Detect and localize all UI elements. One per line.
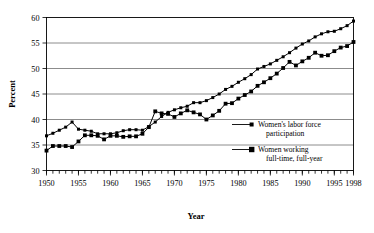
series-0-point-1988 [288, 51, 291, 54]
series-0-point-1996 [339, 27, 342, 30]
series-0-point-1990 [301, 43, 304, 46]
series-1-point-1974 [198, 113, 202, 117]
series-1-point-1953 [64, 144, 68, 148]
series-1-point-1950 [45, 149, 49, 153]
series-0-point-1973 [192, 101, 195, 104]
x-tick-label-1990: 1990 [294, 179, 310, 188]
series-1-point-1995 [332, 49, 336, 53]
series-1-point-1954 [70, 145, 74, 149]
series-0-point-1971 [179, 106, 182, 109]
legend-marker-1 [249, 147, 254, 152]
series-1-point-1979 [230, 101, 234, 105]
series-0-point-1991 [307, 39, 310, 42]
series-1-point-1981 [243, 93, 247, 97]
series-1-point-1971 [179, 111, 183, 115]
series-0-point-1959 [103, 132, 106, 135]
series-0-point-1952 [58, 129, 61, 132]
series-1-point-1957 [89, 133, 93, 137]
series-0-point-1965 [141, 129, 144, 132]
series-0-point-1979 [230, 85, 233, 88]
series-1-point-1973 [192, 110, 196, 114]
series-0-point-1981 [243, 77, 246, 80]
y-tick-label-55: 55 [31, 39, 39, 48]
series-1-point-1963 [128, 134, 132, 138]
series-0-point-1957 [90, 130, 93, 133]
series-0-point-1970 [173, 108, 176, 111]
series-1-point-1987 [281, 66, 285, 70]
series-0-point-1976 [211, 96, 214, 99]
x-tick-label-1965: 1965 [134, 179, 150, 188]
series-0-point-1950 [45, 134, 48, 137]
series-0-point-1998 [352, 20, 355, 23]
series-0-point-1962 [122, 129, 125, 132]
x-tick-label-1955: 1955 [70, 179, 86, 188]
series-0-point-1956 [83, 129, 86, 132]
series-1-point-1993 [320, 54, 324, 58]
series-1-point-1959 [102, 137, 106, 141]
series-1-point-1980 [236, 97, 240, 101]
series-0-point-1997 [346, 24, 349, 27]
legend-marker-0 [250, 123, 254, 127]
series-0-point-1964 [135, 128, 138, 131]
series-1-point-1967 [153, 109, 157, 113]
series-1-point-1977 [217, 109, 221, 113]
series-1-point-1982 [249, 90, 253, 94]
legend-label-1-line1: Women working [258, 145, 309, 154]
series-1-point-1986 [275, 72, 279, 76]
y-tick-label-35: 35 [31, 141, 39, 150]
series-0-point-1961 [115, 131, 118, 134]
x-tick-label-1980: 1980 [230, 179, 246, 188]
series-0-point-1984 [262, 65, 265, 68]
series-1-point-1988 [288, 60, 292, 64]
series-0-point-1955 [77, 128, 80, 131]
series-1-point-1978 [224, 102, 228, 106]
series-1-point-1958 [96, 134, 100, 138]
series-1-point-1956 [83, 133, 87, 137]
series-1-point-1969 [166, 112, 170, 116]
series-1-point-1990 [300, 59, 304, 63]
figure-background [0, 0, 374, 233]
line-chart: 30354045505560 1950195519601965197019751… [0, 0, 374, 233]
series-1-point-1968 [160, 111, 164, 115]
legend-label-0-line2: participation [266, 129, 305, 138]
series-1-point-1975 [205, 118, 209, 122]
series-0-point-1987 [282, 55, 285, 58]
series-1-point-1998 [352, 40, 356, 44]
series-1-point-1983 [256, 84, 260, 88]
x-tick-label-1975: 1975 [198, 179, 214, 188]
x-tick-label-1998: 1998 [345, 179, 361, 188]
y-tick-label-30: 30 [31, 167, 39, 176]
series-1-point-1970 [173, 115, 177, 119]
x-tick-label-1985: 1985 [262, 179, 278, 188]
y-tick-label-50: 50 [31, 65, 39, 74]
series-1-point-1961 [115, 134, 119, 138]
series-0-point-1986 [275, 59, 278, 62]
series-0-point-1954 [71, 121, 74, 124]
series-1-point-1955 [77, 140, 81, 144]
series-1-point-1951 [51, 144, 55, 148]
series-1-point-1972 [185, 108, 189, 112]
x-tick-label-1950: 1950 [38, 179, 54, 188]
y-axis-title: Percent [7, 80, 17, 108]
series-0-point-1982 [250, 73, 253, 76]
series-1-point-1992 [313, 51, 317, 55]
series-1-point-1952 [57, 144, 61, 148]
series-0-point-1985 [269, 62, 272, 65]
series-1-point-1991 [307, 56, 311, 60]
series-0-point-1963 [128, 128, 131, 131]
series-1-point-1985 [268, 76, 272, 80]
series-0-point-1974 [199, 101, 202, 104]
series-0-point-1978 [224, 88, 227, 91]
series-1-point-1996 [339, 46, 343, 50]
series-1-point-1994 [326, 53, 330, 57]
series-1-point-1965 [141, 132, 145, 136]
series-1-point-1997 [345, 44, 349, 48]
series-1-point-1976 [211, 114, 215, 118]
x-axis-title: Year [188, 211, 205, 221]
series-1-point-1960 [109, 134, 113, 138]
series-0-point-1968 [160, 115, 163, 118]
series-0-point-1972 [186, 105, 189, 108]
series-0-point-1967 [154, 121, 157, 124]
series-0-point-1980 [237, 81, 240, 84]
y-tick-label-45: 45 [31, 90, 39, 99]
